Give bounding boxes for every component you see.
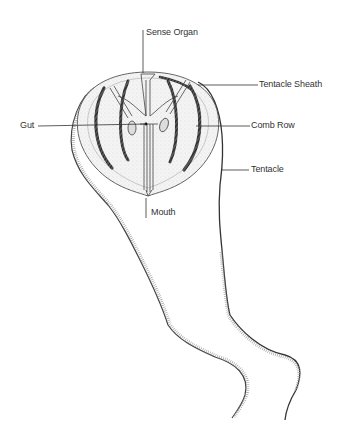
label-sense-organ: Sense Organ (146, 27, 198, 37)
right-lobe-hatching (221, 252, 299, 392)
label-mouth: Mouth (151, 207, 176, 217)
comb-jelly-illustration (0, 0, 344, 441)
label-tentacle-sheath: Tentacle Sheath (259, 79, 322, 89)
label-comb-row: Comb Row (251, 120, 295, 130)
label-tentacle: Tentacle (251, 164, 284, 174)
body-bell (77, 72, 218, 196)
label-gut: Gut (20, 120, 34, 130)
